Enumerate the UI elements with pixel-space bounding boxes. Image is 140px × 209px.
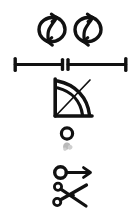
circular-rotation-arrow-icon: [36, 11, 68, 48]
circular-rotation-arrow-icon: [72, 11, 104, 48]
angle-with-arcs-icon: [52, 77, 96, 121]
small-circle-with-smudge-icon: [58, 126, 82, 156]
circle-with-right-arrow-icon: [52, 162, 96, 184]
dimension-line-icon: [13, 57, 129, 73]
symbol-sheet: [0, 0, 140, 209]
scissors-icon: [52, 182, 96, 209]
